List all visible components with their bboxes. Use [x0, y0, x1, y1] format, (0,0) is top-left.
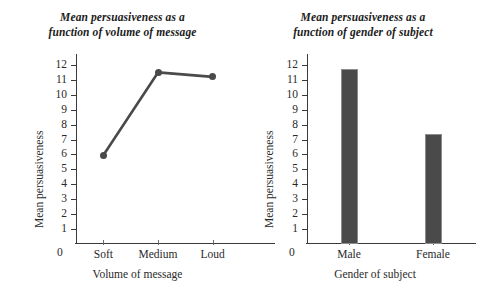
x-axis-title-volume: Volume of message	[30, 268, 245, 280]
x-axis-tick-label: Male	[337, 248, 361, 260]
y-axis-tick-label: 11	[287, 72, 298, 87]
y-axis-tick: 9	[302, 110, 307, 111]
y-axis-origin-label-volume: 0	[57, 246, 63, 258]
data-point-marker	[100, 152, 107, 159]
y-axis-tick-label: 7	[61, 132, 67, 147]
y-axis-tick: 3	[302, 199, 307, 200]
y-axis-title-gender: Mean persuasiveness	[263, 131, 275, 228]
y-axis-tick-label: 4	[292, 176, 298, 191]
y-axis-tick: 7	[302, 140, 307, 141]
y-axis-tick-label: 6	[292, 146, 298, 161]
y-axis-tick-label: 3	[61, 191, 67, 206]
x-axis-tick-label: Female	[416, 248, 450, 260]
y-axis-tick-label: 1	[61, 221, 67, 236]
y-axis-tick: 2	[302, 214, 307, 215]
y-axis-tick: 12	[302, 65, 307, 66]
bar	[425, 134, 442, 244]
y-axis-tick-label: 3	[292, 191, 298, 206]
y-axis-tick-label: 7	[292, 132, 298, 147]
chart-title-line-2: function of volume of message	[0, 25, 245, 40]
y-axis-title-volume: Mean persuasiveness	[33, 131, 45, 228]
line-path	[103, 72, 212, 155]
plot-area-volume: 121110987654321 SoftMediumLoud	[76, 56, 240, 244]
y-axis-tick-label: 12	[56, 57, 68, 72]
y-axis-tick-label: 8	[61, 117, 67, 132]
y-axis-tick-label: 9	[292, 102, 298, 117]
chart-title-volume: Mean persuasiveness as a function of vol…	[0, 10, 245, 39]
x-axis-tick-label: Soft	[94, 248, 113, 260]
x-axis-line-gender	[306, 243, 476, 244]
chart-title-line-1: Mean persuasiveness as a	[0, 10, 245, 25]
y-axis-tick: 6	[302, 154, 307, 155]
y-axis-tick: 1	[302, 229, 307, 230]
y-axis-tick-label: 5	[292, 161, 298, 176]
chart-panel-volume: Mean persuasiveness as a function of vol…	[0, 0, 245, 295]
y-axis-tick-label: 2	[61, 206, 67, 221]
y-axis-tick-label: 1	[292, 221, 298, 236]
chart-title-line-1: Mean persuasiveness as a	[245, 10, 481, 25]
bar	[341, 69, 358, 244]
chart-title-gender: Mean persuasiveness as a function of gen…	[245, 10, 481, 39]
y-axis-tick-label: 2	[292, 206, 298, 221]
y-axis-tick-label: 9	[61, 102, 67, 117]
chart-title-line-2: function of gender of subject	[245, 25, 481, 40]
y-axis-tick: 5	[302, 169, 307, 170]
line-series-volume	[76, 56, 246, 246]
y-axis-tick: 8	[302, 125, 307, 126]
y-axis-tick-label: 8	[292, 117, 298, 132]
y-axis-tick-label: 10	[56, 87, 68, 102]
figure: Mean persuasiveness as a function of vol…	[0, 0, 481, 295]
x-axis-tick-label: Medium	[139, 248, 178, 260]
y-axis-tick-label: 12	[287, 57, 299, 72]
y-axis-tick: 10	[302, 95, 307, 96]
y-axis-tick-label: 5	[61, 161, 67, 176]
x-axis-title-gender: Gender of subject	[270, 268, 480, 280]
y-axis-tick-label: 11	[56, 72, 67, 87]
x-axis-tick-label: Loud	[201, 248, 225, 260]
y-axis-line-gender	[307, 54, 308, 244]
y-axis-tick-label: 10	[287, 87, 299, 102]
y-axis-origin-label-gender: 0	[289, 246, 295, 258]
y-axis-tick: 11	[302, 80, 307, 81]
y-axis-tick: 4	[302, 184, 307, 185]
y-axis-tick-label: 6	[61, 146, 67, 161]
data-point-marker	[155, 69, 162, 76]
plot-area-gender: 121110987654321 MaleFemale	[307, 56, 475, 244]
y-axis-tick-label: 4	[61, 176, 67, 191]
